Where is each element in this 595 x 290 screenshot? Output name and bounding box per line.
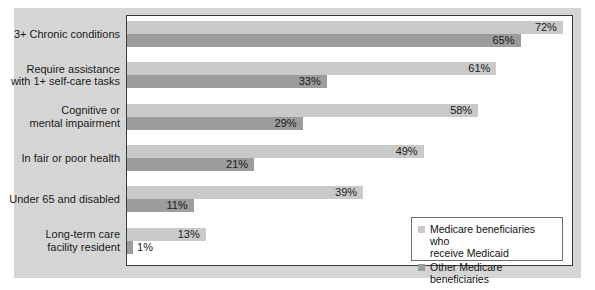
bar-value-label: 39% xyxy=(127,186,357,199)
chart-legend: Medicare beneficiaries who receive Medic… xyxy=(411,217,563,261)
category-label-2: Cognitive ormental impairment xyxy=(8,104,120,129)
category-label-line: Under 65 and disabled xyxy=(9,193,120,205)
bar-value-label: 11% xyxy=(127,199,188,212)
category-label-1: Require assistancewith 1+ self-care task… xyxy=(8,63,120,88)
bar-value-label: 1% xyxy=(137,241,153,254)
category-label-line: Long-term care xyxy=(45,228,120,240)
legend-swatch-light-icon xyxy=(418,226,425,233)
legend-swatch-dark-icon xyxy=(418,264,425,271)
bar-chart: 3+ Chronic conditionsRequire assistancew… xyxy=(0,0,595,290)
legend-entry-medicaid: Medicare beneficiaries who receive Medic… xyxy=(418,223,557,259)
bar-other-5 xyxy=(127,241,133,254)
bar-value-label: 13% xyxy=(127,228,200,241)
category-label-line: mental impairment xyxy=(30,117,120,129)
bar-value-label: 29% xyxy=(127,117,297,130)
category-label-3: In fair or poor health xyxy=(8,152,120,165)
legend-entry-other: Other Medicare beneficiaries xyxy=(418,261,557,285)
bar-value-label: 49% xyxy=(127,145,418,158)
category-label-line: Cognitive or xyxy=(61,104,120,116)
legend-label-medicaid: Medicare beneficiaries who receive Medic… xyxy=(430,223,557,259)
category-label-line: with 1+ self-care tasks xyxy=(11,75,120,87)
category-axis-labels: 3+ Chronic conditionsRequire assistancew… xyxy=(14,15,126,266)
bar-value-label: 21% xyxy=(127,158,248,171)
category-label-line: Require assistance xyxy=(26,63,120,75)
category-label-4: Under 65 and disabled xyxy=(8,193,120,206)
category-label-5: Long-term carefacility resident xyxy=(8,228,120,253)
bar-value-label: 61% xyxy=(127,62,490,75)
bar-value-label: 65% xyxy=(127,34,515,47)
legend-label-other: Other Medicare beneficiaries xyxy=(430,261,557,285)
category-label-line: In fair or poor health xyxy=(22,152,120,164)
bar-value-label: 58% xyxy=(127,104,472,117)
category-label-line: 3+ Chronic conditions xyxy=(14,28,120,40)
legend-label-medicaid-line2: receive Medicaid xyxy=(430,247,509,259)
legend-label-medicaid-line1: Medicare beneficiaries who xyxy=(430,223,535,247)
category-label-line: facility resident xyxy=(47,241,120,253)
bar-value-label: 33% xyxy=(127,75,321,88)
bar-value-label: 72% xyxy=(127,21,557,34)
category-label-0: 3+ Chronic conditions xyxy=(8,28,120,41)
